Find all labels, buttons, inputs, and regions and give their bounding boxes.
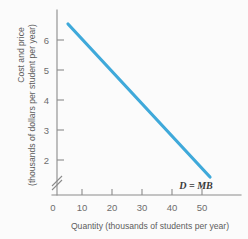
chart-plot-area: 6 5 4 3 2 0 10 20 30 40 50 D = MB Quanti… (0, 0, 248, 239)
x-axis-title: Quantity (thousands of students per year… (71, 221, 229, 231)
y-tick-label-6: 6 (44, 35, 49, 46)
chart-figure: 6 5 4 3 2 0 10 20 30 40 50 D = MB Quanti… (0, 0, 248, 239)
y-tick-label-2: 2 (44, 155, 49, 166)
x-tick-label-0: 0 (50, 202, 55, 213)
x-tick-label-30: 30 (137, 202, 148, 213)
x-tick-label-20: 20 (107, 202, 118, 213)
y-tick-label-4: 4 (44, 95, 49, 106)
x-tick-label-10: 10 (77, 202, 88, 213)
y-axis-title-line2: (thousands of dollars per student per ye… (27, 24, 37, 186)
y-tick-label-3: 3 (44, 125, 49, 136)
demand-curve-line (68, 24, 210, 177)
x-tick-label-40: 40 (167, 202, 178, 213)
y-tick-label-5: 5 (44, 65, 49, 76)
x-tick-label-50: 50 (197, 202, 208, 213)
demand-curve-label: D = MB (178, 180, 213, 191)
y-axis-title-line1: Cost and price (16, 27, 26, 83)
y-axis-ticks (57, 40, 64, 160)
